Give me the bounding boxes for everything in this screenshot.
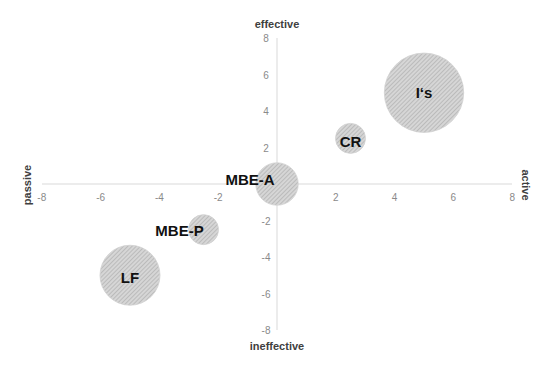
x-tick-label: 8 [509,192,515,203]
bubble-lf: LF [100,245,160,305]
bubble-cr: CR [336,123,366,153]
x-tick-label: -8 [37,192,46,203]
bubble-label: I‘s [416,84,433,101]
y-tick-label: 8 [263,33,269,44]
y-axis-title-top: effective [255,18,300,30]
x-tick-label: 4 [392,192,398,203]
bubble-is: I‘s [384,53,463,132]
x-tick-label: -4 [155,192,164,203]
y-tick-label: 4 [263,106,269,117]
y-tick-label: -2 [262,216,271,227]
y-tick-label: -8 [262,325,271,336]
x-axis-title-right: active [520,169,532,200]
x-tick-label: -6 [96,192,105,203]
bubble-label: LF [121,269,139,286]
bubble-label: CR [340,133,362,150]
x-tick-label: 6 [451,192,457,203]
y-axis-title-bottom: ineffective [250,340,304,352]
bubble-mbep: MBE-P [155,215,218,245]
bubble-chart: -8-6-4-202468 -8-6-4-22468 effective ine… [0,0,551,368]
y-tick-label: 6 [263,70,269,81]
bubble-series: I‘sCRMBE-AMBE-PLF [100,53,464,305]
bubble-label: MBE-P [155,222,203,239]
x-axis-title-left: passive [21,165,33,205]
x-tick-label: 2 [333,192,339,203]
y-tick-label: -4 [262,252,271,263]
bubble-mbea: MBE-A [225,163,298,205]
bubble-label: MBE-A [225,171,274,188]
y-tick-label: -6 [262,289,271,300]
y-tick-label: 2 [263,143,269,154]
x-tick-label: -2 [214,192,223,203]
